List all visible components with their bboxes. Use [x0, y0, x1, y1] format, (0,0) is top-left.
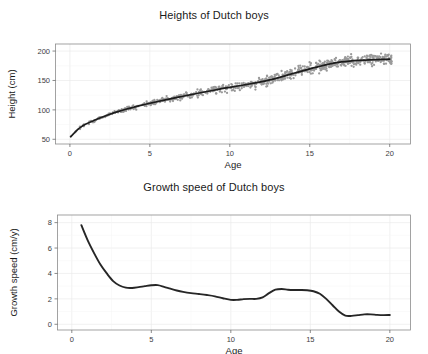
scatter-point [240, 87, 242, 89]
x-tick-label: 0 [70, 335, 74, 344]
scatter-point [345, 58, 347, 60]
scatter-point [326, 59, 328, 61]
scatter-point [318, 72, 320, 74]
scatter-point [224, 90, 226, 92]
scatter-point [294, 67, 296, 69]
scatter-point [363, 62, 365, 64]
scatter-point [294, 74, 296, 76]
x-tick-label: 15 [306, 335, 314, 344]
heights-chart-svg: 0510152050100150200AgeHeight (cm) [0, 22, 428, 180]
y-tick-label: 8 [48, 218, 52, 227]
scatter-point [369, 56, 371, 58]
x-axis-title: Age [226, 345, 243, 354]
x-tick-label: 5 [149, 335, 153, 344]
scatter-point [196, 88, 198, 90]
scatter-point [254, 85, 256, 87]
scatter-point [330, 61, 332, 63]
scatter-point [349, 57, 351, 59]
scatter-point [383, 62, 385, 64]
scatter-point [380, 52, 382, 54]
heights-chart-title: Heights of Dutch boys [0, 0, 428, 22]
scatter-point [359, 64, 361, 66]
x-tick-label: 10 [226, 149, 234, 158]
scatter-point [218, 85, 220, 87]
scatter-point [243, 82, 245, 84]
scatter-point [364, 55, 366, 57]
scatter-point [347, 55, 349, 57]
scatter-point [165, 95, 167, 97]
y-tick-label: 0 [48, 320, 52, 329]
x-tick-label: 20 [386, 335, 394, 344]
scatter-point [375, 60, 377, 62]
scatter-point [339, 59, 341, 61]
scatter-point [316, 64, 318, 66]
scatter-point [306, 66, 308, 68]
scatter-point [375, 55, 377, 57]
scatter-point [380, 61, 382, 63]
scatter-point [340, 64, 342, 66]
scatter-point [386, 55, 388, 57]
scatter-point [353, 63, 355, 65]
scatter-point [226, 92, 228, 94]
scatter-point [350, 65, 352, 67]
scatter-point [215, 92, 217, 94]
scatter-point [280, 70, 282, 72]
scatter-point [181, 98, 183, 100]
scatter-point [267, 83, 269, 85]
y-tick-label: 100 [37, 106, 50, 115]
scatter-point [321, 62, 323, 64]
scatter-point [281, 78, 283, 80]
scatter-point [344, 65, 346, 67]
scatter-point [221, 85, 223, 87]
scatter-point [371, 62, 373, 64]
scatter-point [234, 90, 236, 92]
y-tick-label: 150 [37, 76, 50, 85]
scatter-point [261, 78, 263, 80]
x-tick-label: 20 [386, 149, 394, 158]
scatter-point [258, 77, 260, 79]
x-tick-label: 10 [227, 335, 235, 344]
scatter-point [145, 105, 147, 107]
scatter-point [315, 62, 317, 64]
y-axis-title: Height (cm) [6, 69, 17, 118]
scatter-point [298, 67, 300, 69]
scatter-point [239, 89, 241, 91]
scatter-point [215, 86, 217, 88]
scatter-point [390, 56, 392, 58]
scatter-point [350, 53, 352, 55]
scatter-point [238, 82, 240, 84]
y-axis-title: Growth speed (cm/y) [8, 228, 19, 316]
scatter-point [230, 83, 232, 85]
scatter-point [262, 83, 264, 85]
scatter-point [369, 61, 371, 63]
scatter-point [324, 68, 326, 70]
growth-speed-chart-title: Growth speed of Dutch boys [0, 172, 428, 194]
scatter-point [372, 56, 374, 58]
scatter-point [250, 85, 252, 87]
scatter-point [235, 87, 237, 89]
y-tick-label: 2 [48, 295, 52, 304]
scatter-point [309, 64, 311, 66]
y-tick-label: 200 [37, 47, 50, 56]
scatter-point [132, 104, 134, 106]
scatter-point [219, 90, 221, 92]
scatter-point [169, 100, 171, 102]
scatter-point [301, 74, 303, 76]
plot-background [56, 44, 411, 144]
x-tick-label: 15 [306, 149, 314, 158]
scatter-point [292, 77, 294, 79]
y-tick-label: 50 [42, 135, 50, 144]
y-tick-label: 4 [48, 269, 52, 278]
scatter-point [266, 75, 268, 77]
scatter-point [179, 99, 181, 101]
scatter-point [254, 88, 256, 90]
scatter-point [234, 82, 236, 84]
scatter-point [318, 59, 320, 61]
scatter-point [308, 61, 310, 63]
scatter-point [197, 96, 199, 98]
x-tick-label: 5 [148, 149, 152, 158]
scatter-point [329, 66, 331, 68]
scatter-point [362, 56, 364, 58]
scatter-point [385, 63, 387, 65]
